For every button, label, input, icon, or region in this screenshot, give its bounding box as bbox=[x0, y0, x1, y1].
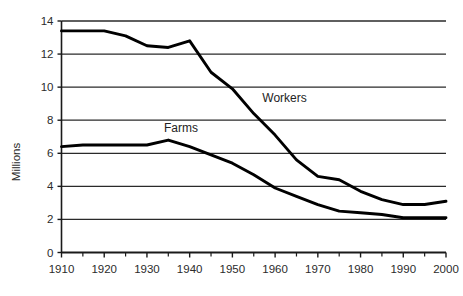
y-gridlines bbox=[62, 21, 447, 219]
line-chart: 02468101214 1910192019301940195019601970… bbox=[0, 0, 463, 296]
x-tick-label: 1960 bbox=[262, 263, 288, 275]
y-tick-label: 12 bbox=[41, 48, 54, 60]
series-line-workers bbox=[62, 31, 447, 205]
x-tick-label: 2000 bbox=[433, 263, 459, 275]
x-tick-label: 1950 bbox=[220, 263, 246, 275]
series-annotations: WorkersFarms bbox=[164, 91, 307, 135]
series-line-farms bbox=[62, 140, 447, 218]
data-series-group bbox=[62, 31, 447, 218]
y-tick-label: 10 bbox=[41, 81, 54, 93]
y-tick-label: 8 bbox=[47, 114, 53, 126]
x-tick-label: 1980 bbox=[348, 263, 374, 275]
y-axis-tick-labels: 02468101214 bbox=[41, 15, 54, 259]
y-tick-label: 0 bbox=[47, 247, 53, 259]
x-tick-label: 1930 bbox=[134, 263, 160, 275]
y-tick-label: 2 bbox=[47, 213, 53, 225]
x-tick-label: 1970 bbox=[305, 263, 331, 275]
x-axis-tick-labels: 1910192019301940195019601970198019902000 bbox=[49, 263, 459, 275]
x-tick-label: 1940 bbox=[177, 263, 203, 275]
series-label-workers: Workers bbox=[262, 91, 306, 105]
y-tick-label: 4 bbox=[47, 180, 54, 192]
chart-container: 02468101214 1910192019301940195019601970… bbox=[0, 0, 463, 296]
x-tick-label: 1990 bbox=[390, 263, 416, 275]
series-label-farms: Farms bbox=[164, 121, 198, 135]
x-tick-label: 1910 bbox=[49, 263, 75, 275]
y-tick-label: 6 bbox=[47, 147, 53, 159]
y-tick-label: 14 bbox=[41, 15, 54, 27]
x-tick-label: 1920 bbox=[91, 263, 117, 275]
y-axis-title: Millions bbox=[10, 143, 22, 182]
